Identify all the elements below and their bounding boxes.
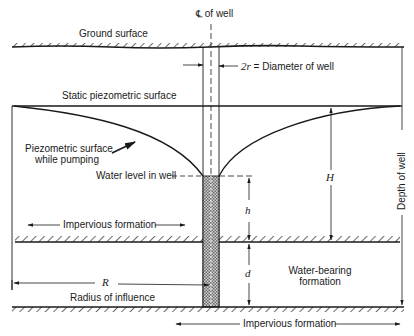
drawdown-curve-right	[219, 106, 400, 176]
water-level-label: Water level in well	[96, 170, 176, 181]
R-label: R	[102, 277, 109, 288]
depth-of-well-label: Depth of well	[396, 152, 407, 210]
H-label: H	[326, 172, 334, 183]
ground-surface-label: Ground surface	[79, 28, 148, 39]
water-bearing-line1: Water-bearing	[275, 265, 365, 276]
pumping-surface-line1: Piezometric surface	[25, 143, 109, 154]
water-bearing-line2: formation	[275, 276, 365, 287]
diameter-label: 2r = Diameter of well	[241, 61, 334, 72]
water-bearing-label: Water-bearing formation	[275, 265, 365, 287]
ground-surface	[12, 43, 404, 48]
drawdown-curve-left	[14, 106, 203, 176]
impervious-upper-label: Impervious formation	[63, 219, 156, 230]
pumping-surface-line2: while pumping	[25, 154, 109, 165]
radius-label: Radius of influence	[70, 292, 155, 303]
centerline-label: ℄ of well	[196, 8, 233, 19]
static-surface-label: Static piezometric surface	[62, 90, 177, 101]
pumping-surface-label: Piezometric surface while pumping	[25, 143, 109, 165]
bottom-impervious-layer	[12, 307, 404, 312]
impervious-lower-label: Impervious formation	[243, 318, 336, 329]
diameter-text: = Diameter of well	[251, 61, 334, 72]
diameter-variable: 2r	[241, 60, 251, 72]
pumping-surface-pointer	[112, 142, 135, 153]
h-label: h	[245, 205, 251, 216]
d-label: d	[245, 268, 251, 279]
R-arrow-right	[118, 284, 209, 285]
